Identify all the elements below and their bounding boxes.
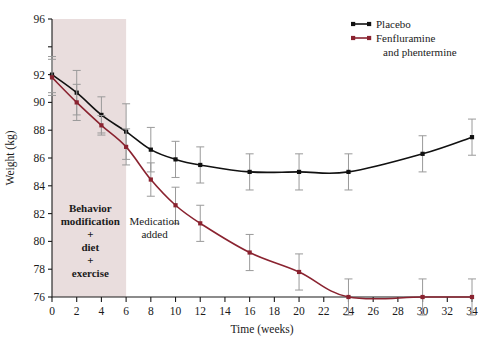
annotation-behavior-modification: + (87, 254, 93, 266)
annotation-medication-added: added (141, 228, 168, 240)
data-point-marker[interactable] (198, 163, 202, 167)
data-point-marker[interactable] (50, 75, 54, 79)
x-axis-tick-label: 18 (269, 305, 281, 317)
chart-figure: 7678808284868890929602468101214161820222… (0, 0, 493, 343)
x-axis-tick-label: 10 (170, 305, 182, 317)
data-point-marker[interactable] (420, 152, 424, 156)
x-axis-tick-label: 6 (123, 305, 129, 317)
y-axis-tick-label: 76 (34, 291, 46, 303)
legend-label: Fenfluramine (376, 32, 435, 44)
data-point-marker[interactable] (470, 295, 474, 299)
y-axis-tick-label: 92 (34, 69, 46, 81)
x-axis-tick-label: 12 (194, 305, 206, 317)
annotation-behavior-modification: exercise (72, 267, 109, 279)
data-point-marker[interactable] (149, 148, 153, 152)
y-axis-tick-label: 90 (34, 96, 46, 108)
data-point-marker[interactable] (470, 135, 474, 139)
x-axis-tick-label: 0 (49, 305, 55, 317)
x-axis-tick-label: 16 (244, 305, 256, 317)
data-point-marker[interactable] (248, 170, 252, 174)
weight-loss-line-chart: 7678808284868890929602468101214161820222… (0, 0, 493, 343)
legend-label: and phentermine (383, 46, 457, 58)
x-axis-tick-label: 32 (442, 305, 454, 317)
data-point-marker[interactable] (75, 100, 79, 104)
y-axis-tick-label: 78 (34, 263, 46, 275)
data-point-marker[interactable] (297, 170, 301, 174)
data-point-marker[interactable] (420, 295, 424, 299)
x-axis-tick-label: 8 (148, 305, 154, 317)
annotation-behavior-modification: + (87, 228, 93, 240)
data-point-marker[interactable] (173, 157, 177, 161)
data-point-marker[interactable] (346, 170, 350, 174)
y-axis-title: Weight (kg) (4, 130, 17, 185)
x-axis-tick-label: 26 (367, 305, 379, 317)
data-point-marker[interactable] (198, 221, 202, 225)
legend-label: Placebo (376, 18, 411, 30)
y-axis-tick-label: 82 (34, 208, 46, 220)
x-axis-tick-label: 22 (318, 305, 330, 317)
legend-marker-dot (367, 36, 371, 40)
x-axis-tick-label: 2 (74, 305, 80, 317)
legend-marker-dot (367, 22, 371, 26)
y-axis-tick-label: 96 (34, 13, 46, 25)
x-axis-tick-label: 14 (219, 305, 231, 317)
annotation-behavior-modification: modification (61, 215, 120, 227)
legend-marker-dot (351, 22, 355, 26)
y-axis-tick-label: 80 (34, 235, 46, 247)
annotation-behavior-modification: Behavior (69, 202, 112, 214)
y-axis-tick-label: 88 (34, 124, 46, 136)
data-point-marker[interactable] (297, 270, 301, 274)
x-axis-tick-label: 4 (99, 305, 105, 317)
data-point-marker[interactable] (124, 145, 128, 149)
annotation-medication-added: Medication (129, 215, 180, 227)
data-point-marker[interactable] (248, 250, 252, 254)
data-point-marker[interactable] (99, 123, 103, 127)
y-axis-tick-label: 86 (34, 152, 46, 164)
data-point-marker[interactable] (173, 203, 177, 207)
legend-marker-dot (351, 36, 355, 40)
x-axis-tick-label: 28 (392, 305, 404, 317)
data-point-marker[interactable] (346, 295, 350, 299)
annotation-behavior-modification: diet (81, 241, 99, 253)
x-axis-title: Time (weeks) (230, 323, 293, 336)
x-axis-tick-label: 20 (293, 305, 305, 317)
data-point-marker[interactable] (149, 177, 153, 181)
y-axis-tick-label: 84 (34, 180, 46, 192)
